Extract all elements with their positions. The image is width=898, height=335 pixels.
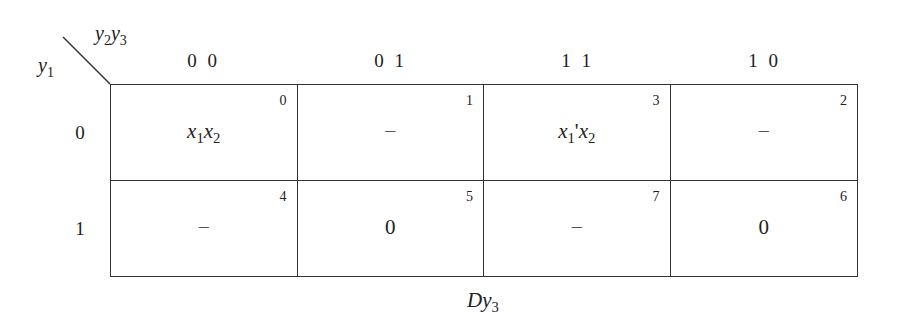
cell-value: x1x2 — [111, 119, 297, 147]
row-header-1: 1 — [70, 218, 90, 240]
kmap-cell-m2: 2 – — [671, 85, 858, 181]
kmap-cell-m5: 5 0 — [298, 181, 485, 277]
kmap-cell-m4: 4 – — [111, 181, 298, 277]
cell-value-dont-care: – — [111, 215, 297, 238]
kmap-cell-m3: 3 x1'x2 — [484, 85, 671, 181]
minterm-index: 5 — [466, 189, 473, 205]
cell-value-dont-care: – — [298, 119, 484, 142]
cell-value-dont-care: – — [671, 119, 858, 142]
kmap-cell-m6: 6 0 — [671, 181, 858, 277]
column-header-00: 0 0 — [110, 50, 297, 72]
row-variable-label: y1 — [38, 54, 54, 81]
minterm-index: 1 — [466, 93, 473, 109]
column-header-10: 1 0 — [671, 50, 858, 72]
column-variables-label: y2y3 — [95, 22, 127, 49]
minterm-index: 0 — [280, 93, 287, 109]
kmap-cell-m7: 7 – — [484, 181, 671, 277]
minterm-index: 4 — [280, 189, 287, 205]
kmap-cell-m0: 0 x1x2 — [111, 85, 298, 181]
cell-value: 0 — [671, 215, 858, 240]
karnaugh-map-grid: 0 x1x2 1 – 3 x1'x2 2 – 4 – 5 0 7 – 6 0 — [110, 84, 858, 277]
minterm-index: 2 — [840, 93, 847, 109]
minterm-index: 7 — [653, 189, 660, 205]
cell-value: x1'x2 — [484, 119, 670, 147]
map-caption: Dy3 — [467, 288, 499, 316]
row-header-0: 0 — [70, 122, 90, 144]
cell-value: 0 — [298, 215, 484, 240]
column-header-01: 0 1 — [297, 50, 484, 72]
kmap-cell-m1: 1 – — [298, 85, 485, 181]
cell-value-dont-care: – — [484, 215, 670, 238]
minterm-index: 6 — [840, 189, 847, 205]
column-header-11: 1 1 — [484, 50, 671, 72]
minterm-index: 3 — [653, 93, 660, 109]
